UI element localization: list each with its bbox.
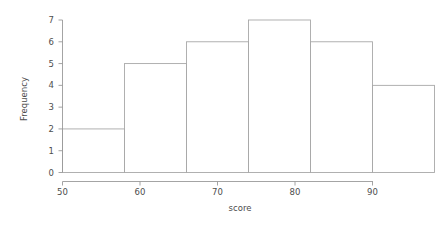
histogram-bar [249, 20, 311, 173]
x-tick-label: 70 [212, 187, 223, 197]
y-tick-label: 3 [49, 102, 54, 112]
histogram-bar [373, 85, 435, 172]
y-axis-title: Frequency [19, 77, 29, 121]
y-tick-label: 1 [49, 146, 54, 156]
x-tick-label: 60 [135, 187, 146, 197]
y-tick-label: 5 [49, 59, 54, 69]
y-axis: 01234567 [49, 15, 63, 178]
y-tick-label: 6 [49, 37, 54, 47]
x-tick-label: 90 [367, 187, 378, 197]
y-tick-label: 0 [49, 168, 54, 178]
histogram-bar [125, 64, 187, 173]
x-tick-label: 80 [290, 187, 301, 197]
x-axis-title: score [229, 203, 252, 213]
y-tick-label: 7 [49, 15, 54, 25]
histogram-bar [187, 42, 249, 173]
histogram-bar [63, 129, 125, 173]
chart-svg: 01234567 5060708090 score Frequency [0, 0, 448, 226]
y-tick-label: 2 [49, 124, 54, 134]
bars-group [63, 20, 435, 173]
y-tick-group: 01234567 [49, 15, 63, 178]
histogram-figure: 01234567 5060708090 score Frequency [0, 0, 448, 226]
y-tick-label: 4 [49, 80, 54, 90]
histogram-bar [311, 42, 373, 173]
x-axis: 5060708090 [57, 182, 378, 198]
x-tick-group: 5060708090 [57, 182, 378, 198]
x-tick-label: 50 [57, 187, 68, 197]
